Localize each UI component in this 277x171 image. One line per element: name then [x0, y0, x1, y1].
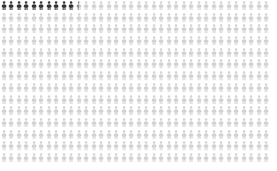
- pictogram-person-icon: [45, 24, 53, 36]
- pictogram-person-icon: [263, 130, 271, 142]
- pictogram-person-icon: [83, 106, 91, 118]
- pictogram-person-icon: [143, 24, 151, 36]
- pictogram-person-icon: [83, 36, 91, 48]
- pictogram-person-icon: [135, 24, 143, 36]
- pictogram-person-icon: [23, 130, 31, 142]
- pictogram-person-icon: [68, 106, 76, 118]
- pictogram-person-icon: [68, 95, 76, 107]
- pictogram-person-icon: [188, 95, 196, 107]
- pictogram-person-icon: [135, 118, 143, 130]
- pictogram-person-icon: [218, 59, 226, 71]
- pictogram-person-icon: [15, 130, 23, 142]
- pictogram-person-icon: [188, 71, 196, 83]
- pictogram-person-icon: [158, 95, 166, 107]
- pictogram-person-icon: [188, 59, 196, 71]
- pictogram-person-icon: [83, 59, 91, 71]
- pictogram-person-icon: [120, 118, 128, 130]
- pictogram-person-icon: [90, 71, 98, 83]
- pictogram-person-icon: [173, 130, 181, 142]
- pictogram-person-icon: [128, 1, 136, 13]
- pictogram-person-icon: [105, 13, 113, 25]
- pictogram-person-icon: [225, 24, 233, 36]
- pictogram-person-icon: [165, 1, 173, 13]
- pictogram-person-icon: [248, 83, 256, 95]
- pictogram-person-icon: [8, 106, 16, 118]
- pictogram-person-icon: [83, 130, 91, 142]
- pictogram-person-icon: [30, 24, 38, 36]
- pictogram-person-icon: [143, 71, 151, 83]
- pictogram-person-icon: [135, 48, 143, 60]
- pictogram-person-icon: [113, 36, 121, 48]
- pictogram-person-icon: [75, 130, 83, 142]
- pictogram-person-icon: [210, 118, 218, 130]
- pictogram-person-icon: [263, 153, 271, 165]
- pictogram-person-icon: [83, 13, 91, 25]
- pictogram-person-icon: [128, 106, 136, 118]
- pictogram-person-icon: [233, 153, 241, 165]
- pictogram-person-icon: [23, 36, 31, 48]
- pictogram-person-icon: [8, 130, 16, 142]
- pictogram-person-icon: [210, 1, 218, 13]
- pictogram-person-icon: [158, 141, 166, 153]
- pictogram-person-icon: [195, 71, 203, 83]
- pictogram-person-icon: [90, 95, 98, 107]
- pictogram-person-icon: [263, 36, 271, 48]
- pictogram-person-icon: [263, 106, 271, 118]
- pictogram-person-icon: [203, 83, 211, 95]
- pictogram-person-icon: [165, 95, 173, 107]
- pictogram-person-icon: [8, 36, 16, 48]
- pictogram-person-icon: [135, 36, 143, 48]
- pictogram-person-icon: [248, 106, 256, 118]
- pictogram-person-icon: [38, 153, 46, 165]
- pictogram-person-icon: [150, 36, 158, 48]
- pictogram-person-icon: [75, 95, 83, 107]
- pictogram-person-icon: [75, 118, 83, 130]
- pictogram-person-icon: [38, 59, 46, 71]
- pictogram-person-icon: [158, 36, 166, 48]
- pictogram-person-icon: [68, 130, 76, 142]
- pictogram-person-icon: [180, 48, 188, 60]
- pictogram-person-icon: [248, 24, 256, 36]
- pictogram-person-icon: [218, 95, 226, 107]
- pictogram-person-icon: [233, 71, 241, 83]
- pictogram-person-icon: [8, 95, 16, 107]
- pictogram-person-icon: [195, 83, 203, 95]
- pictogram-person-icon: [233, 118, 241, 130]
- pictogram-person-icon: [210, 153, 218, 165]
- pictogram-person-icon: [195, 13, 203, 25]
- pictogram-person-icon: [165, 153, 173, 165]
- pictogram-person-icon: [68, 24, 76, 36]
- pictogram-person-icon: [240, 48, 248, 60]
- pictogram-person-icon: [165, 141, 173, 153]
- pictogram-person-icon: [135, 1, 143, 13]
- pictogram-person-icon: [158, 153, 166, 165]
- pictogram-person-icon: [180, 153, 188, 165]
- pictogram-person-icon: [195, 59, 203, 71]
- pictogram-person-icon: [150, 71, 158, 83]
- pictogram-person-icon: [68, 59, 76, 71]
- pictogram-person-icon: [38, 83, 46, 95]
- pictogram-person-icon: [165, 48, 173, 60]
- pictogram-person-icon: [15, 24, 23, 36]
- pictogram-person-icon: [120, 59, 128, 71]
- pictogram-person-icon: [218, 130, 226, 142]
- pictogram-person-icon: [135, 83, 143, 95]
- pictogram-person-icon: [135, 95, 143, 107]
- pictogram-person-icon: [45, 130, 53, 142]
- pictogram-person-icon: [0, 13, 8, 25]
- pictogram-person-icon: [60, 130, 68, 142]
- pictogram-person-icon: [173, 24, 181, 36]
- pictogram-person-icon: [8, 59, 16, 71]
- pictogram-person-icon: [210, 141, 218, 153]
- pictogram-person-icon: [255, 13, 263, 25]
- pictogram-person-icon: [30, 1, 38, 13]
- pictogram-person-icon: [240, 13, 248, 25]
- pictogram-person-icon: [75, 24, 83, 36]
- pictogram-person-icon: [128, 83, 136, 95]
- pictogram-person-icon: [113, 59, 121, 71]
- pictogram-person-icon: [120, 24, 128, 36]
- pictogram-person-icon: [195, 106, 203, 118]
- pictogram-person-icon: [233, 48, 241, 60]
- pictogram-icon-grid: [0, 1, 270, 165]
- pictogram-person-icon: [150, 95, 158, 107]
